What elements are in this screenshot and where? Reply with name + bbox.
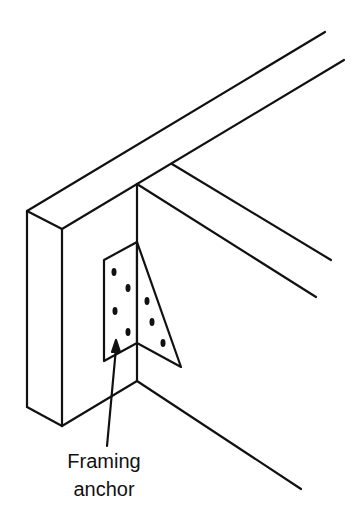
label-framing: Framing — [54, 450, 154, 472]
label-anchor: anchor — [54, 478, 154, 500]
header-beam — [27, 32, 344, 426]
framing-diagram — [0, 0, 360, 520]
